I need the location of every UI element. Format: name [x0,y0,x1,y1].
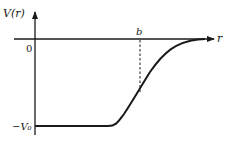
depth-label: −V₀ [12,121,32,132]
origin-label: 0 [26,43,32,54]
potential-curve [35,39,205,126]
potential-diagram: V(r) r 0 −V₀ b [0,0,234,147]
x-axis-label: r [217,32,223,45]
y-axis-label: V(r) [3,7,25,20]
b-label: b [136,26,142,37]
